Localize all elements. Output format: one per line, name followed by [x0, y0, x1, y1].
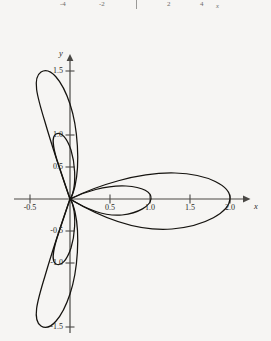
- x-tick-label-1-5: 1.5: [185, 203, 195, 212]
- y-axis-name: y: [59, 49, 63, 58]
- y-tick-label-minus-0-5: -0.5: [41, 226, 63, 235]
- y-tick-label-minus-1-5: -1.5: [41, 322, 63, 331]
- plot-canvas: [0, 0, 271, 341]
- x-tick-label-0-5: 0.5: [105, 203, 115, 212]
- x-axis-name: x: [254, 202, 258, 211]
- x-tick-label-1-0: 1.0: [145, 203, 155, 212]
- polar-rose-figure: -4 -2 2 4 x: [0, 0, 271, 341]
- y-tick-label-minus-1-0: -1.0: [41, 258, 63, 267]
- y-tick-label-1-5: 1.5: [44, 66, 63, 75]
- x-axis: [14, 196, 251, 203]
- y-tick-label-0-5: 0.5: [44, 162, 63, 171]
- x-tick-label-2-0: 2.0: [225, 203, 235, 212]
- y-tick-label-1-0: 1.0: [44, 130, 63, 139]
- x-tick-label-minus-0-5: -0.5: [24, 203, 37, 212]
